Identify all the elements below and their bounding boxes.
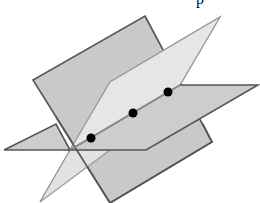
point-3 [164, 88, 173, 97]
horizontal-plane-left [4, 124, 70, 150]
point-1 [87, 134, 96, 143]
point-2 [129, 109, 138, 118]
intersecting-planes-diagram [0, 0, 260, 203]
